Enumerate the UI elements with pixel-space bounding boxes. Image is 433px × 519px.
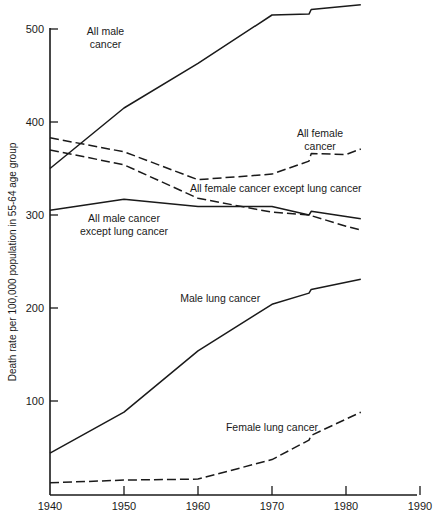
series-label: Female lung cancer: [226, 421, 319, 433]
series-label: All femalecancer: [297, 127, 343, 152]
line-chart: 100200300400500 194019501960197019801990…: [0, 0, 433, 519]
y-axis: 100200300400500: [26, 23, 58, 495]
x-tick-label: 1940: [38, 500, 62, 512]
series-label: All female cancer except lung cancer: [190, 182, 362, 194]
series-labels: All malecancerAll femalecancerAll female…: [80, 25, 362, 433]
series-lines: [50, 5, 361, 483]
series-label: Male lung cancer: [180, 292, 260, 304]
y-tick-label: 200: [26, 302, 44, 314]
series-label: All male cancerexcept lung cancer: [80, 212, 169, 237]
x-tick-label: 1950: [112, 500, 136, 512]
y-axis-label: Death rate per 100,000 population in 55-…: [7, 142, 18, 381]
y-tick-label: 500: [26, 23, 44, 35]
y-tick-label: 100: [26, 395, 44, 407]
x-tick-label: 1980: [334, 500, 358, 512]
x-tick-label: 1970: [260, 500, 284, 512]
x-tick-label: 1960: [186, 500, 210, 512]
series-label: All malecancer: [87, 25, 125, 50]
y-tick-label: 300: [26, 209, 44, 221]
x-axis: 194019501960197019801990: [38, 486, 432, 512]
y-tick-label: 400: [26, 116, 44, 128]
x-tick-label: 1990: [408, 500, 432, 512]
